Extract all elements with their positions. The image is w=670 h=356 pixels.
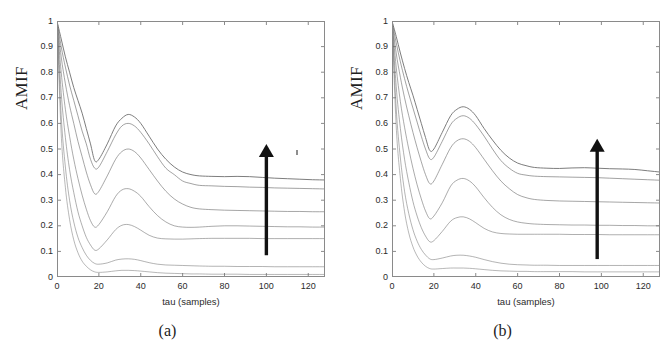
panel-a: AMIF 10.90.80.70.60.50.40.30.20.10 02040… (0, 0, 335, 356)
y-tick-label: 0.1 (362, 247, 388, 256)
y-tick-label: 0 (362, 273, 388, 282)
x-axis-label-b: tau (samples) (392, 296, 660, 307)
amif-curve (57, 21, 325, 274)
x-tick-label: 60 (171, 282, 195, 291)
x-tick-label: 120 (296, 282, 320, 291)
tick-marks-b (392, 21, 660, 277)
amif-curve (57, 21, 325, 212)
plot-canvas-b (392, 21, 660, 277)
x-tick-label: 20 (422, 282, 446, 291)
scan-artifact-speck (296, 150, 298, 155)
y-tick-label: 0.2 (27, 221, 53, 230)
x-tick-label: 20 (87, 282, 111, 291)
y-tick-label: 0.3 (362, 196, 388, 205)
y-tick-label: 0.4 (27, 170, 53, 179)
panel-caption-a: (a) (0, 322, 335, 340)
amif-curve (57, 21, 325, 250)
amif-curve (392, 21, 660, 265)
y-tick-label: 0.2 (362, 221, 388, 230)
x-tick-label: 80 (548, 282, 572, 291)
amif-curve (392, 21, 660, 203)
x-tick-label: 40 (464, 282, 488, 291)
y-tick-label: 0.7 (362, 93, 388, 102)
amif-curve (57, 21, 325, 189)
y-tick-label: 0.9 (362, 42, 388, 51)
y-tick-label: 0.5 (362, 145, 388, 154)
x-tick-label: 80 (213, 282, 237, 291)
curve-group-b (392, 21, 660, 272)
axis-frame-b (393, 22, 660, 277)
panel-b: AMIF 10.90.80.70.60.50.40.30.20.10 02040… (335, 0, 670, 356)
plot-area-a (57, 21, 325, 277)
y-tick-label: 0.5 (27, 145, 53, 154)
amif-curve (392, 21, 660, 180)
amif-curve (392, 21, 660, 226)
panel-caption-b: (b) (335, 322, 670, 340)
y-tick-label: 0.7 (27, 93, 53, 102)
amif-curve (392, 21, 660, 172)
y-tick-label: 0.8 (27, 68, 53, 77)
x-tick-label: 100 (254, 282, 278, 291)
figure-two-panel-amif: AMIF 10.90.80.70.60.50.40.30.20.10 02040… (0, 0, 670, 356)
y-tick-label: 0 (27, 273, 53, 282)
x-tick-label: 120 (631, 282, 655, 291)
x-tick-label: 60 (506, 282, 530, 291)
x-axis-label-a: tau (samples) (57, 296, 325, 307)
amif-curve (57, 21, 325, 267)
amif-curve (392, 21, 660, 242)
y-tick-label: 0.4 (362, 170, 388, 179)
y-tick-label: 0.9 (27, 42, 53, 51)
plot-area-b (392, 21, 660, 277)
amif-curve (57, 21, 325, 180)
x-tick-label: 0 (380, 282, 404, 291)
x-tick-label: 0 (45, 282, 69, 291)
plot-canvas-a (57, 21, 325, 277)
curve-group-a (57, 21, 325, 274)
y-tick-label: 0.1 (27, 247, 53, 256)
y-tick-label: 0.6 (27, 119, 53, 128)
amif-curve (57, 21, 325, 227)
y-tick-label: 1 (362, 17, 388, 26)
y-tick-label: 1 (27, 17, 53, 26)
y-tick-label: 0.3 (27, 196, 53, 205)
x-tick-label: 100 (589, 282, 613, 291)
y-tick-label: 0.6 (362, 119, 388, 128)
x-tick-label: 40 (129, 282, 153, 291)
y-tick-label: 0.8 (362, 68, 388, 77)
